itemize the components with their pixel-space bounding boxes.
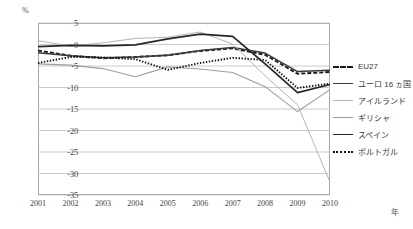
legend-label-spain: スペイン: [358, 129, 389, 140]
legend-swatch-eu27: [333, 62, 353, 72]
legend-item-greece: ギリシャ: [333, 109, 413, 126]
y-axis-tick: -30: [48, 170, 78, 178]
series-group: [38, 32, 330, 182]
legend-item-ireland: アイルランド: [333, 92, 413, 109]
series-line: [38, 32, 330, 182]
legend-label-eu27: EU27: [358, 62, 378, 71]
legend-swatch-greece: [333, 113, 353, 123]
legend-swatch-ireland: [333, 96, 353, 106]
legend-label-euro16: ユーロ 16 ヵ国: [358, 78, 411, 89]
legend-item-spain: スペイン: [333, 126, 413, 143]
y-axis-tick: -15: [48, 105, 78, 113]
y-axis-tick: 5: [48, 19, 78, 27]
legend-swatch-portugal: [333, 147, 353, 157]
chart-legend: EU27 ユーロ 16 ヵ国 アイルランド ギリシャ スペイン ポルトガル: [333, 58, 413, 160]
legend-item-eu27: EU27: [333, 58, 413, 75]
gridlines-group: [38, 23, 330, 195]
y-axis-tick: 0: [48, 41, 78, 49]
y-axis-tick: -5: [48, 62, 78, 70]
x-axis-tick: 2010: [310, 199, 350, 208]
y-axis-tick: -20: [48, 127, 78, 135]
legend-item-portugal: ポルトガル: [333, 143, 413, 160]
legend-label-portugal: ポルトガル: [358, 146, 398, 157]
y-axis-tick: -35: [48, 191, 78, 199]
legend-swatch-spain: [333, 130, 353, 140]
legend-item-euro16: ユーロ 16 ヵ国: [333, 75, 413, 92]
legend-label-greece: ギリシャ: [358, 112, 390, 123]
chart-container: % 年 50-5-10-15-20-25-30-35 2001200220032…: [0, 0, 413, 229]
y-axis-tick: -10: [48, 84, 78, 92]
series-line: [38, 34, 330, 92]
legend-swatch-euro16: [333, 79, 353, 89]
y-axis-tick: -25: [48, 148, 78, 156]
legend-label-ireland: アイルランド: [358, 95, 406, 106]
